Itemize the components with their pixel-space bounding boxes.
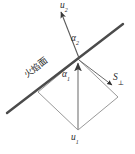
label-u1-sub: 1 xyxy=(76,139,79,145)
label-alpha2-sub: 2 xyxy=(76,40,79,46)
label-u2: u2 xyxy=(60,1,68,13)
label-alpha2: α2 xyxy=(71,34,79,46)
label-s-perp-sub: ⊥ xyxy=(118,79,124,86)
label-alpha1-sub: 1 xyxy=(67,76,70,82)
label-u2-sub: 2 xyxy=(65,7,68,13)
flame-front-vector-diagram: u2 α2 α1 S⊥ u1 火焰面 xyxy=(0,0,135,154)
rhombus-edge-lower-right xyxy=(78,97,118,130)
label-u1: u1 xyxy=(71,133,79,145)
s-perp-vector-arrow xyxy=(79,60,112,85)
rhombus-edge-lower-left xyxy=(38,92,78,130)
label-alpha1: α1 xyxy=(62,70,70,82)
label-s-perp: S⊥ xyxy=(113,73,124,85)
rhombus-edge-upper-right xyxy=(78,59,118,97)
